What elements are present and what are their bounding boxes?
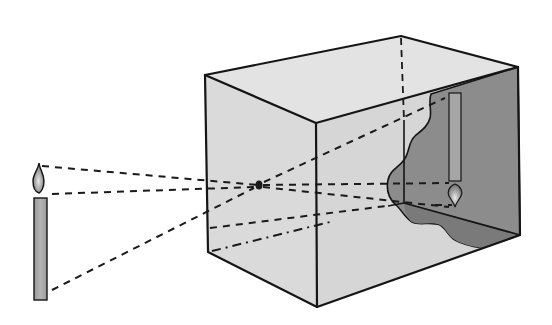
candle-body — [34, 198, 47, 300]
inverted-candle-image — [449, 93, 461, 181]
diagram-canvas — [0, 0, 552, 325]
candle-flame — [33, 163, 44, 193]
pinhole — [256, 181, 263, 190]
pinhole-camera-diagram — [0, 0, 552, 325]
